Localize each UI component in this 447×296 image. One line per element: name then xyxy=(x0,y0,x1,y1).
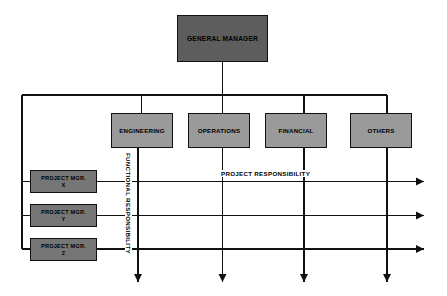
node-project-manager-x[interactable]: PROJECT MGR. X xyxy=(30,170,97,193)
node-project-manager-z[interactable]: PROJECT MGR. Z xyxy=(30,238,97,261)
node-others-label: OTHERS xyxy=(368,127,395,134)
node-project-manager-z-line1: PROJECT MGR. xyxy=(41,243,86,249)
functional-responsibility-label: FUNCTIONAL RESPONSIBILITY xyxy=(125,152,132,255)
node-general-manager-label: GENERAL MANAGER xyxy=(187,35,258,43)
node-project-manager-z-label: PROJECT MGR. Z xyxy=(41,243,86,256)
node-project-manager-x-line1: PROJECT MGR. xyxy=(41,175,86,181)
project-responsibility-label: PROJECT RESPONSIBILITY xyxy=(219,170,312,177)
node-project-manager-x-label: PROJECT MGR. X xyxy=(41,175,86,188)
node-others[interactable]: OTHERS xyxy=(350,113,412,148)
node-project-manager-z-line2: Z xyxy=(41,250,86,256)
node-operations-label: OPERATIONS xyxy=(198,127,240,134)
node-engineering[interactable]: ENGINEERING xyxy=(111,113,173,148)
node-financial-label: FINANCIAL xyxy=(278,127,313,134)
node-project-manager-y-line1: PROJECT MGR. xyxy=(41,209,86,215)
node-general-manager[interactable]: GENERAL MANAGER xyxy=(177,15,268,62)
node-engineering-label: ENGINEERING xyxy=(119,127,165,134)
node-financial[interactable]: FINANCIAL xyxy=(265,113,327,148)
node-project-manager-x-line2: X xyxy=(41,182,86,188)
matrix-organization-diagram: GENERAL MANAGER ENGINEERING OPERATIONS F… xyxy=(0,0,447,296)
node-project-manager-y-line2: Y xyxy=(41,216,86,222)
node-project-manager-y-label: PROJECT MGR. Y xyxy=(41,209,86,222)
node-project-manager-y[interactable]: PROJECT MGR. Y xyxy=(30,204,97,227)
node-operations[interactable]: OPERATIONS xyxy=(188,113,250,148)
